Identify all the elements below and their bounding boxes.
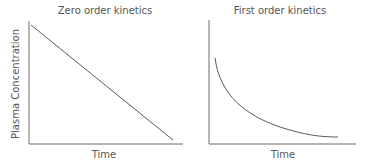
zero-order-line — [31, 25, 173, 140]
y-axis-label: Plasma Concentration — [10, 29, 21, 139]
first-order-x-label: Time — [270, 149, 295, 160]
first-order-title: First order kinetics — [234, 5, 327, 16]
zero-order-title: Zero order kinetics — [58, 5, 153, 16]
zero-order-chart: Zero order kinetics Time Plasma Concentr… — [10, 5, 183, 160]
kinetics-figure: Zero order kinetics Time Plasma Concentr… — [0, 0, 368, 166]
first-order-curve — [215, 58, 338, 137]
first-order-chart: First order kinetics Time — [209, 5, 356, 160]
zero-order-x-label: Time — [91, 149, 116, 160]
